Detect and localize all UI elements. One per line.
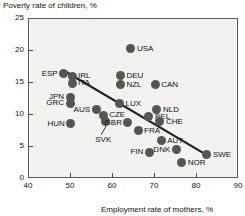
y-tick-label: 25 [2, 14, 24, 22]
data-point-label: DEU [126, 72, 143, 80]
data-point-label: NZL [126, 81, 141, 89]
y-tick-label: 0 [2, 174, 24, 182]
data-point-label: SVK [95, 136, 111, 144]
data-point-label: DNK [153, 146, 170, 154]
x-tick-label: 40 [16, 182, 40, 190]
scatter-chart: Poverty rate of children, % 252015105040… [0, 0, 245, 216]
data-point-label: HUN [47, 120, 64, 128]
x-tick-label: 60 [100, 182, 124, 190]
y-tick-label: 20 [2, 46, 24, 54]
data-point-label: AUS [74, 106, 90, 114]
data-point-label: GBR [105, 119, 122, 127]
data-point[interactable] [134, 126, 143, 135]
x-tick-label: 80 [184, 182, 208, 190]
data-point-label: NOR [188, 159, 206, 167]
x-tick-label: 50 [58, 182, 82, 190]
data-point-label: GRC [46, 99, 64, 107]
data-point-label: AUT [167, 137, 183, 145]
y-tick-label: 5 [2, 142, 24, 150]
y-axis-title: Poverty rate of children, % [3, 1, 97, 11]
data-point[interactable] [116, 80, 125, 89]
y-tick-mark [28, 114, 33, 115]
x-tick-mark [70, 173, 71, 178]
data-point-label: FIN [130, 148, 143, 156]
x-tick-label: 90 [226, 182, 245, 190]
y-tick-label: 10 [2, 110, 24, 118]
data-point[interactable] [116, 71, 125, 80]
data-point[interactable] [151, 80, 160, 89]
y-tick-mark [28, 146, 33, 147]
y-tick-mark [28, 82, 33, 83]
x-tick-mark [196, 173, 197, 178]
x-tick-label: 70 [142, 182, 166, 190]
y-tick-label: 15 [2, 78, 24, 86]
data-point-label: CAN [161, 81, 178, 89]
y-tick-mark [28, 50, 33, 51]
data-point-label: LUX [126, 100, 142, 108]
data-point-label: ESP [42, 70, 58, 78]
data-point-label: ITA [78, 79, 90, 87]
data-point-label: FRA [144, 127, 160, 135]
x-tick-mark [154, 173, 155, 178]
x-tick-mark [112, 173, 113, 178]
data-point-label: SWE [213, 151, 231, 159]
data-point[interactable] [68, 79, 77, 88]
data-point[interactable] [145, 148, 154, 157]
x-axis-title: Employment rate of mothers, % [101, 205, 213, 215]
data-point-label: USA [137, 45, 153, 53]
data-point-label: CHE [166, 118, 183, 126]
